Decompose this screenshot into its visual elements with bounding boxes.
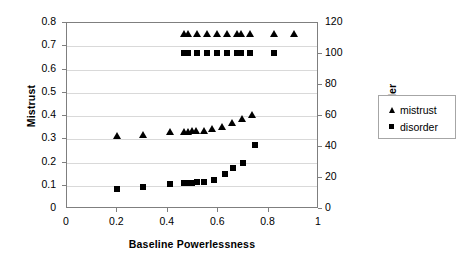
y-axis-left-tick-label: 0.3 xyxy=(16,131,56,143)
square-marker-icon xyxy=(386,124,397,129)
y-axis-right-tick-label: 120 xyxy=(325,15,365,27)
x-axis-tick-label: 0.8 xyxy=(248,215,288,227)
y-axis-right-tick-label: 20 xyxy=(325,170,365,182)
data-point-mistrust xyxy=(228,119,236,126)
data-point-disorder xyxy=(224,50,230,56)
data-point-disorder xyxy=(185,50,191,56)
y-axis-left-tick-label: 0.2 xyxy=(16,155,56,167)
gridline xyxy=(67,93,317,94)
y-axis-right-tick-label: 80 xyxy=(325,77,365,89)
y-axis-right-tick-mark xyxy=(318,53,322,54)
legend-item-disorder: disorder xyxy=(386,118,455,135)
data-point-mistrust xyxy=(270,30,278,37)
y-axis-right-tick-label: 100 xyxy=(325,46,365,58)
data-point-disorder xyxy=(271,50,277,56)
y-axis-right-tick-mark xyxy=(318,177,322,178)
y-axis-left-tick-label: 0.5 xyxy=(16,85,56,97)
gridline xyxy=(67,186,317,187)
gridline xyxy=(67,46,317,47)
data-point-disorder xyxy=(211,177,217,183)
data-point-disorder xyxy=(114,186,120,192)
data-point-disorder xyxy=(238,50,244,56)
x-axis-title: Baseline Powerlessness xyxy=(66,238,318,250)
legend-item-mistrust: mistrust xyxy=(386,101,455,118)
x-axis-tick-mark xyxy=(268,208,269,212)
data-point-mistrust xyxy=(290,30,298,37)
data-point-mistrust xyxy=(246,30,254,37)
legend-label-disorder: disorder xyxy=(400,121,438,133)
data-point-mistrust xyxy=(203,30,211,37)
data-point-mistrust xyxy=(184,30,192,37)
data-point-mistrust xyxy=(218,123,226,130)
gridline xyxy=(67,116,317,117)
data-point-mistrust xyxy=(139,131,147,138)
y-axis-right-tick-label: 40 xyxy=(325,139,365,151)
data-point-mistrust xyxy=(238,115,246,122)
data-point-disorder xyxy=(222,171,228,177)
y-axis-left-tick-label: 0.8 xyxy=(16,15,56,27)
x-axis-tick-mark xyxy=(116,208,117,212)
x-axis-tick-label: 0.2 xyxy=(96,215,136,227)
data-point-disorder xyxy=(204,50,210,56)
data-point-disorder xyxy=(252,142,258,148)
data-point-mistrust xyxy=(192,127,200,134)
chart-legend: mistrust disorder xyxy=(378,95,456,139)
scatter-chart: Mistrust Disorder Baseline Powerlessness… xyxy=(0,0,463,263)
y-axis-right-tick-mark xyxy=(318,146,322,147)
y-axis-left-tick-label: 0 xyxy=(16,201,56,213)
y-axis-right-tick-label: 60 xyxy=(325,108,365,120)
data-point-mistrust xyxy=(248,111,256,118)
data-point-mistrust xyxy=(208,125,216,132)
legend-label-mistrust: mistrust xyxy=(400,104,437,116)
y-axis-left-tick-label: 0.4 xyxy=(16,108,56,120)
gridline xyxy=(67,139,317,140)
data-point-mistrust xyxy=(166,128,174,135)
data-point-disorder xyxy=(167,181,173,187)
x-axis-tick-label: 1 xyxy=(298,215,338,227)
gridline xyxy=(67,163,317,164)
data-point-disorder xyxy=(230,165,236,171)
x-axis-tick-mark xyxy=(167,208,168,212)
data-point-mistrust xyxy=(193,30,201,37)
data-point-disorder xyxy=(214,50,220,56)
y-axis-left-tick-label: 0.6 xyxy=(16,62,56,74)
y-axis-right-tick-mark xyxy=(318,208,322,209)
data-point-mistrust xyxy=(213,30,221,37)
data-point-disorder xyxy=(247,50,253,56)
y-axis-right-tick-label: 0 xyxy=(325,201,365,213)
y-axis-right-tick-mark xyxy=(318,84,322,85)
x-axis-tick-label: 0.6 xyxy=(197,215,237,227)
y-axis-left-tick-label: 0.1 xyxy=(16,178,56,190)
data-point-disorder xyxy=(201,179,207,185)
gridline xyxy=(67,70,317,71)
data-point-mistrust xyxy=(223,30,231,37)
data-point-disorder xyxy=(140,184,146,190)
data-point-mistrust xyxy=(113,132,121,139)
data-point-disorder xyxy=(194,50,200,56)
triangle-marker-icon xyxy=(386,107,397,113)
y-axis-right-tick-mark xyxy=(318,115,322,116)
x-axis-tick-label: 0 xyxy=(46,215,86,227)
x-axis-tick-mark xyxy=(217,208,218,212)
y-axis-left-tick-label: 0.7 xyxy=(16,38,56,50)
plot-area xyxy=(66,22,318,208)
data-point-mistrust xyxy=(237,30,245,37)
data-point-disorder xyxy=(194,179,200,185)
x-axis-tick-label: 0.4 xyxy=(147,215,187,227)
data-point-disorder xyxy=(240,160,246,166)
